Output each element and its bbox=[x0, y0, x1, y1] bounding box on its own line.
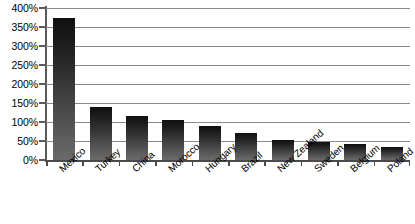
y-axis-tick-label: 350% bbox=[12, 21, 38, 33]
x-axis-labels: MexicoTurkeyChinaMoroccoHungaryBrazilNew… bbox=[0, 166, 410, 224]
y-axis-tick-label: 0% bbox=[23, 154, 38, 166]
bars-layer bbox=[46, 8, 410, 160]
y-axis-tick-label: 250% bbox=[12, 59, 38, 71]
bar bbox=[53, 18, 75, 161]
y-axis-tick-label: 300% bbox=[12, 40, 38, 52]
y-axis-tick-label: 200% bbox=[12, 78, 38, 90]
y-axis-tick-label: 100% bbox=[12, 116, 38, 128]
y-axis-tick-label: 150% bbox=[12, 97, 38, 109]
plot-area bbox=[46, 8, 410, 160]
y-axis-tick-label: 50% bbox=[17, 135, 38, 147]
y-axis-tick-label: 400% bbox=[12, 2, 38, 14]
